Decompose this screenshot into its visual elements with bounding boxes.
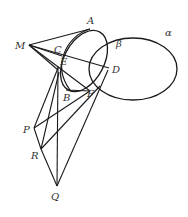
label-D: D [111,64,120,75]
segment-R-up [41,72,59,149]
segment-P-up1 [34,68,58,128]
label-F: F [86,88,95,99]
label-M: M [14,40,26,51]
label-E: E [59,56,68,67]
label-Q: Q [51,191,59,202]
label-A: A [86,15,94,26]
segment-MA [29,29,90,45]
geometry-figure: A M C E D β α B F P R Q [0,0,188,217]
label-P: P [22,124,30,135]
label-beta: β [115,38,122,49]
label-alpha: α [165,27,172,38]
segment-QE [57,66,58,186]
segment-RQ [41,149,57,186]
label-C: C [54,44,62,55]
segment-PR [34,128,41,149]
segment-PF [34,91,90,128]
label-R: R [30,150,39,161]
label-B: B [62,92,70,103]
figure-svg: A M C E D β α B F P R Q [0,0,188,217]
